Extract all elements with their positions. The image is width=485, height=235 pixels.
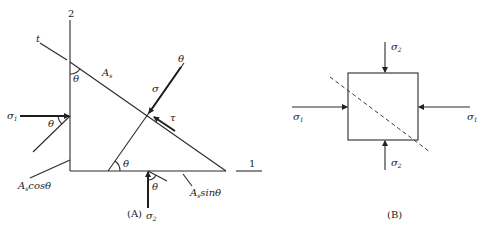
tau-label: τ [170,112,176,123]
figure-b: σ2 σ2 σ1 σ1 (B) [292,41,478,220]
theta-arc-sigma2 [148,175,156,180]
oblique-plane-dashed [330,77,430,152]
theta-label-bottom: θ [123,158,129,169]
sigma1-right-label: σ1 [467,111,478,123]
figure-b-caption: (B) [387,209,402,220]
theta-label-sigma1: θ [48,118,54,129]
figure-a: 2 t 1 θ As σ θ τ θ σ1 θ As [7,8,262,222]
plane-extension-line [40,43,67,60]
theta-arc-bottom [115,161,120,171]
sigma1-label: σ1 [7,110,18,122]
sigma2-top-label: σ2 [391,41,402,53]
sigma2-bottom-label: σ2 [391,157,402,169]
figure-a-caption: (A) [127,208,142,219]
theta-label-top: θ [73,73,79,84]
plane-label-t: t [36,33,41,44]
triangle-hypotenuse [70,62,226,171]
stress-element-square [348,73,418,140]
area-cos-label: Ascosθ [17,180,51,192]
sigma-label: σ [152,83,160,94]
theta-label-sigma2: θ [152,181,158,192]
axis-2-label: 2 [68,8,74,19]
axis-1-label: 1 [249,158,255,169]
sigma2-label: σ2 [146,210,157,222]
area-label: As [101,67,112,79]
theta-arc-sigma1 [58,116,62,124]
theta-label-normal: θ [178,53,184,64]
stress-diagram: 2 t 1 θ As σ θ τ θ σ1 θ As [0,0,485,235]
sigma1-left-label: σ1 [293,111,304,123]
area-cos-leader [30,160,70,178]
area-sin-label: Assinθ [189,187,221,199]
area-sin-leader [183,174,192,186]
